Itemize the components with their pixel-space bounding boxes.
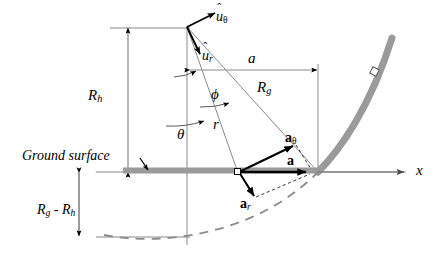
label-a-vector: a	[287, 154, 294, 168]
label-u-r: ˆur	[202, 49, 213, 65]
RgRh-sub2: h	[71, 208, 76, 218]
dashed-arc	[104, 172, 318, 239]
RgRh-base1: R	[37, 202, 46, 217]
label-a-theta: aθ	[285, 131, 297, 147]
label-ground-surface: Ground surface	[22, 149, 110, 163]
label-phi: ϕ	[211, 87, 219, 102]
u-theta-vector	[187, 13, 215, 27]
u-r-sub: r	[209, 54, 213, 64]
unit-vectors	[187, 13, 215, 54]
u-theta-hat: ˆ	[217, 3, 221, 15]
Rh-sub: h	[97, 93, 102, 104]
figure-canvas: ˆuθ ˆur Rh a Rg ϕ θ r Ground surface Rg …	[0, 0, 437, 254]
RgRh-op: -	[50, 202, 62, 217]
point-p-marker	[235, 169, 241, 175]
label-Rh: Rh	[88, 88, 102, 104]
u-r-vector	[187, 27, 200, 54]
a-r-sub: r	[247, 202, 251, 212]
Rg-base: R	[257, 79, 266, 95]
Rg-sub: g	[266, 85, 271, 96]
label-theta: θ	[177, 127, 184, 142]
upper-arc	[174, 71, 196, 77]
theta-arc	[166, 121, 204, 126]
a-theta-base: a	[285, 130, 292, 145]
label-a-r: ar	[240, 197, 251, 213]
label-Rg: Rg	[257, 80, 271, 96]
label-r: r	[213, 117, 219, 132]
earth-curve	[318, 38, 392, 172]
dash-a-theta-to-a	[296, 145, 311, 169]
u-theta-sub: θ	[223, 15, 228, 25]
a-r-vector	[239, 172, 254, 196]
acceleration-vectors	[239, 146, 306, 196]
a-r-base: a	[240, 196, 247, 211]
a-theta-sub: θ	[292, 136, 297, 146]
label-x-axis: x	[416, 163, 423, 178]
label-a-dim: a	[248, 51, 256, 66]
Rh-base: R	[88, 87, 97, 103]
label-u-theta: ˆuθ	[216, 10, 228, 26]
RgRh-base2: R	[62, 202, 71, 217]
u-r-hat: ˆ	[203, 42, 207, 54]
dash-a-r-to-a	[256, 174, 310, 197]
angle-arcs	[166, 71, 229, 126]
label-Rg-minus-Rh: Rg - Rh	[37, 203, 75, 219]
